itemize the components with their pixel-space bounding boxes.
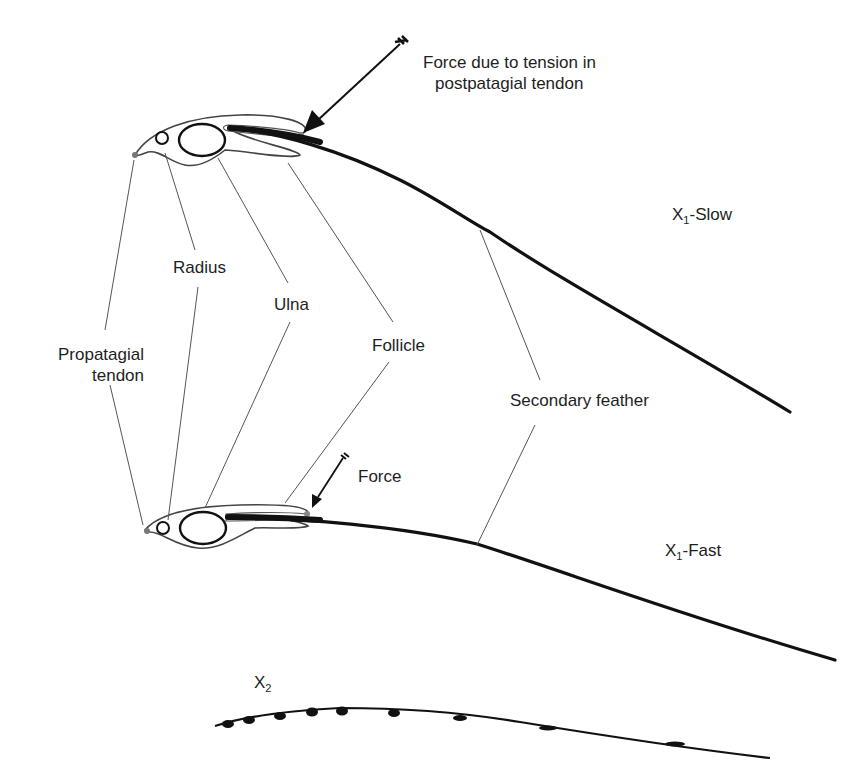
x2-base: X xyxy=(254,673,265,692)
secondary-feather-label: Secondary feather xyxy=(510,390,649,411)
radius-label: Radius xyxy=(173,257,226,278)
ulna-bone xyxy=(179,124,225,156)
force-top-label-line2: postpatagial tendon xyxy=(423,73,596,94)
propatagial-tendon-dot-fast xyxy=(144,528,150,534)
x1-slow-label: X1-Slow xyxy=(672,204,732,225)
force-bottom-label: Force xyxy=(358,466,401,487)
propatagial-tendon-dot xyxy=(132,152,138,158)
x2-label: X2 xyxy=(254,672,271,693)
x1-fast-base: X xyxy=(665,541,676,560)
propatagial-label-line2: tendon xyxy=(36,365,144,386)
slow-wing-section xyxy=(132,115,790,412)
propatagial-tendon-label: Propatagial tendon xyxy=(36,344,144,386)
x1-slow-suffix: -Slow xyxy=(689,205,732,224)
force-top-label-line1: Force due to tension in xyxy=(423,52,596,73)
propatagial-label-line1: Propatagial xyxy=(36,344,144,365)
radius-bone xyxy=(156,132,168,144)
leader-lines xyxy=(105,153,540,545)
secondary-feather-fast xyxy=(228,517,835,660)
x2-sub: 2 xyxy=(265,682,271,694)
radius-bone-fast xyxy=(157,522,169,534)
force-top-label: Force due to tension in postpatagial ten… xyxy=(423,52,596,94)
force-arrow-top xyxy=(303,36,408,133)
fast-wing-section xyxy=(144,505,835,660)
ulna-label: Ulna xyxy=(274,294,309,315)
follicle-label: Follicle xyxy=(372,335,425,356)
x1-fast-suffix: -Fast xyxy=(682,541,721,560)
secondary-feather-slow xyxy=(230,128,790,412)
force-arrow-bottom xyxy=(312,453,349,508)
wing-diagram xyxy=(0,0,868,778)
x1-slow-base: X xyxy=(672,205,683,224)
feather-x2 xyxy=(215,707,770,759)
x1-fast-label: X1-Fast xyxy=(665,540,721,561)
ulna-bone-fast xyxy=(180,512,226,544)
